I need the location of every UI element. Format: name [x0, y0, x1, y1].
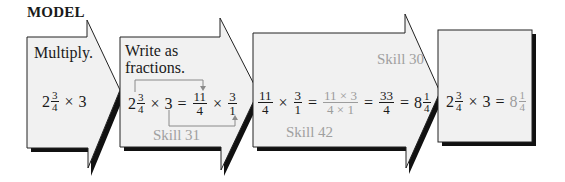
- step-3-expression: 114 × 31 = 11 × 34 × 1 = 334 = 8 14: [257, 89, 432, 116]
- answer-fraction: 14: [519, 90, 527, 113]
- result-box: [438, 30, 532, 142]
- step-2-expression: 2 34 × 3 = 114 × 31: [128, 90, 238, 117]
- skill-31-label: Skill 31: [153, 127, 200, 144]
- step-1-expression: 2 34 × 3: [42, 90, 87, 113]
- whole-number: 2: [446, 93, 454, 111]
- fraction: 34: [51, 90, 59, 113]
- fraction: 334: [379, 89, 394, 116]
- fraction: 14: [423, 91, 431, 114]
- factor: 3: [483, 93, 491, 111]
- fraction: 114: [193, 90, 208, 117]
- step-2-label-line1: Write as: [125, 42, 178, 60]
- fraction: 31: [228, 90, 237, 117]
- step-2-label-line2: fractions.: [125, 59, 185, 77]
- equals-sign: =: [178, 95, 187, 113]
- equals-sign: =: [364, 94, 373, 112]
- times-sign: ×: [65, 93, 74, 111]
- whole-number: 8: [414, 94, 422, 112]
- times-sign: ×: [213, 95, 222, 113]
- factor: 3: [165, 95, 173, 113]
- factor: 3: [79, 93, 87, 111]
- fraction: 34: [137, 92, 145, 115]
- equals-sign: =: [400, 94, 409, 112]
- result-expression: 2 34 × 3 = 8 14: [446, 90, 527, 113]
- equals-sign: =: [496, 93, 505, 111]
- fraction: 34: [455, 90, 463, 113]
- skill-42-label: Skill 42: [286, 124, 333, 141]
- fraction: 31: [294, 89, 303, 116]
- fraction: 114: [258, 89, 273, 116]
- skill-30-label: Skill 30: [377, 51, 424, 68]
- times-sign: ×: [469, 93, 478, 111]
- times-sign: ×: [151, 95, 160, 113]
- answer-whole: 8: [510, 93, 518, 111]
- times-sign: ×: [279, 94, 288, 112]
- whole-number: 2: [128, 95, 136, 113]
- step-1-label: Multiply.: [34, 44, 93, 62]
- product-fraction: 11 × 34 × 1: [323, 89, 358, 116]
- whole-number: 2: [42, 93, 50, 111]
- equals-sign: =: [308, 94, 317, 112]
